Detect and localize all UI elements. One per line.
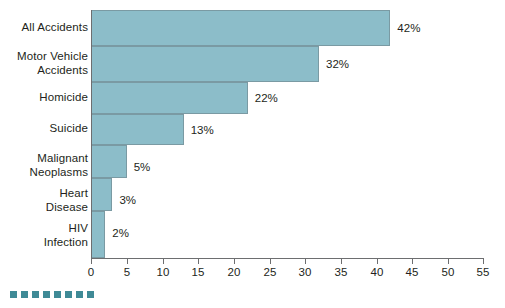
x-tick-30 [305, 259, 306, 264]
category-label-malignant-neoplasms: Malignant Neoplasms [2, 152, 88, 179]
y-axis-line [91, 10, 92, 259]
value-label-malignant-neoplasms: 5% [134, 161, 151, 173]
category-label-line: Motor Vehicle [17, 50, 88, 62]
x-tick-label-30: 30 [291, 266, 319, 279]
decorative-square [87, 291, 94, 298]
value-label-all-accidents: 42% [397, 22, 420, 34]
decorative-square [54, 291, 61, 298]
decorative-square [65, 291, 72, 298]
decorative-square-strip [10, 291, 94, 298]
bar-heart-disease [91, 178, 112, 211]
category-label-line: Homicide [39, 91, 88, 103]
bar-hiv-infection [91, 211, 105, 258]
x-tick-35 [341, 259, 342, 264]
x-tick-label-45: 45 [398, 266, 426, 279]
category-label-all-accidents: All Accidents [2, 21, 88, 35]
x-tick-label-25: 25 [256, 266, 284, 279]
x-axis-line [91, 258, 484, 259]
value-label-homicide: 22% [255, 92, 278, 104]
x-tick-45 [412, 259, 413, 264]
x-tick-label-10: 10 [149, 266, 177, 279]
decorative-square [43, 291, 50, 298]
category-label-line: HIV [69, 222, 88, 234]
bar-suicide [91, 114, 184, 145]
decorative-square [32, 291, 39, 298]
x-tick-label-0: 0 [77, 266, 105, 279]
x-tick-20 [234, 259, 235, 264]
category-label-line: Neoplasms [30, 166, 88, 178]
x-tick-50 [448, 259, 449, 264]
x-tick-25 [270, 259, 271, 264]
x-tick-0 [91, 259, 92, 264]
x-tick-15 [198, 259, 199, 264]
x-tick-55 [483, 259, 484, 264]
plot-area: All Accidents Motor Vehicle Accidents Ho… [0, 0, 505, 308]
x-tick-label-40: 40 [363, 266, 391, 279]
bar-homicide [91, 82, 248, 114]
bar-malignant-neoplasms [91, 145, 127, 178]
category-label-suicide: Suicide [2, 122, 88, 136]
category-label-line: Disease [46, 201, 88, 213]
bar-motor-vehicle-accidents [91, 46, 319, 82]
x-tick-label-15: 15 [184, 266, 212, 279]
value-label-hiv-infection: 2% [112, 227, 129, 239]
x-tick-label-5: 5 [113, 266, 141, 279]
bar-chart: All Accidents Motor Vehicle Accidents Ho… [0, 0, 505, 308]
x-tick-label-35: 35 [327, 266, 355, 279]
category-label-line: Infection [44, 236, 88, 248]
value-label-heart-disease: 3% [119, 194, 136, 206]
x-tick-10 [163, 259, 164, 264]
x-tick-label-50: 50 [434, 266, 462, 279]
bar-all-accidents [91, 10, 390, 46]
category-label-line: Malignant [37, 152, 88, 164]
decorative-square [21, 291, 28, 298]
category-label-line: Accidents [37, 64, 88, 76]
x-tick-40 [377, 259, 378, 264]
category-label-line: All Accidents [22, 21, 89, 33]
decorative-square [76, 291, 83, 298]
category-label-line: Suicide [50, 122, 88, 134]
x-tick-label-55: 55 [469, 266, 497, 279]
value-label-motor-vehicle-accidents: 32% [326, 58, 349, 70]
value-label-suicide: 13% [191, 124, 214, 136]
category-label-line: Heart [59, 187, 88, 199]
category-label-motor-vehicle-accidents: Motor Vehicle Accidents [2, 50, 88, 77]
x-tick-5 [127, 259, 128, 264]
decorative-square [10, 291, 17, 298]
category-label-hiv-infection: HIV Infection [2, 222, 88, 249]
category-label-heart-disease: Heart Disease [2, 187, 88, 214]
category-label-homicide: Homicide [2, 91, 88, 105]
x-tick-label-20: 20 [220, 266, 248, 279]
